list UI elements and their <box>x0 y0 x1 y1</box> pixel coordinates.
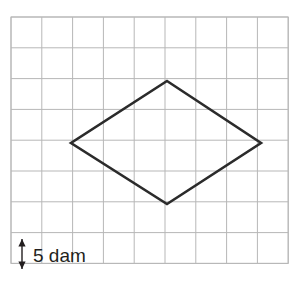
grid-figure-svg: 5 dam <box>0 0 295 289</box>
scale-label: 5 dam <box>33 245 86 266</box>
figure-container: 5 dam <box>0 0 295 289</box>
